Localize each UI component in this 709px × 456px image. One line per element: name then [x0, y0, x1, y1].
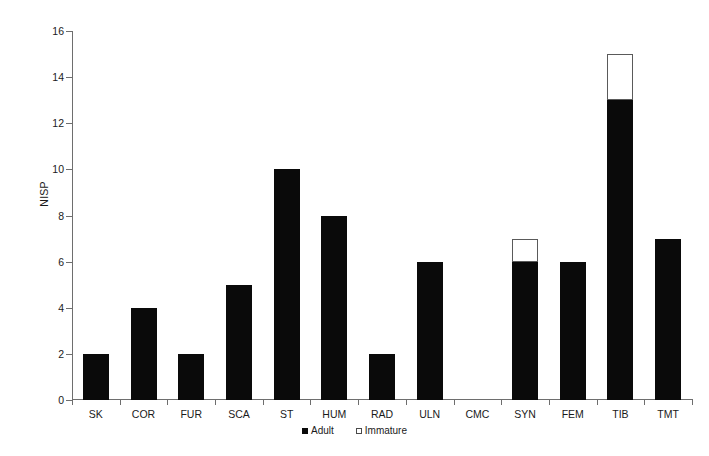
y-axis-tick-label: 8: [40, 211, 64, 221]
bar-group: [321, 216, 347, 401]
y-axis-tick-label: 6: [40, 257, 64, 267]
bar-segment-adult: [369, 354, 395, 400]
filled-square-icon: [302, 428, 308, 434]
legend-entry: Adult: [302, 425, 334, 436]
bar-group: [83, 354, 109, 400]
y-axis-tick-label: 16: [40, 26, 64, 36]
bar-group: [560, 262, 586, 400]
bar-group: [417, 262, 443, 400]
open-square-icon: [356, 428, 362, 434]
bar-segment-adult: [226, 285, 252, 400]
bar-group: [178, 354, 204, 400]
bar-chart: NISP 0246810121416 SKCORFURSCASTHUMRADUL…: [0, 0, 709, 456]
bar-segment-adult: [417, 262, 443, 400]
bar-group: [655, 239, 681, 400]
x-axis-tick: [72, 400, 73, 405]
bar-segment-adult: [607, 100, 633, 400]
y-axis-tick-label: 0: [40, 395, 64, 405]
y-axis-tick-label: 4: [40, 303, 64, 313]
x-axis-tick: [406, 400, 407, 405]
bar-segment-adult: [321, 216, 347, 401]
bar-segment-immature: [607, 54, 633, 100]
bar-segment-adult: [512, 262, 538, 400]
x-axis-tick: [692, 400, 693, 405]
x-axis-tick: [215, 400, 216, 405]
x-axis-tick: [167, 400, 168, 405]
bar-group: [512, 239, 538, 400]
bar-segment-adult: [131, 308, 157, 400]
x-axis-tick: [263, 400, 264, 405]
bar-group: [274, 169, 300, 400]
bar-group: [607, 54, 633, 400]
x-axis-tick: [501, 400, 502, 405]
x-axis-tick: [454, 400, 455, 405]
y-axis-tick-label: 12: [40, 118, 64, 128]
bar-segment-adult: [274, 169, 300, 400]
x-axis-tick-label: TMT: [638, 408, 698, 420]
bar-segment-immature: [512, 239, 538, 262]
legend-entry: Immature: [356, 425, 407, 436]
y-axis-tick-label: 14: [40, 72, 64, 82]
bar-group: [131, 308, 157, 400]
bar-group: [226, 285, 252, 400]
x-axis-tick: [644, 400, 645, 405]
legend-label: Immature: [365, 425, 407, 436]
legend-label: Adult: [311, 425, 334, 436]
chart-legend: AdultImmature: [0, 425, 709, 436]
bar-segment-adult: [178, 354, 204, 400]
bar-segment-adult: [560, 262, 586, 400]
bar-segment-adult: [655, 239, 681, 400]
bar-group: [369, 354, 395, 400]
y-axis-tick-label: 10: [40, 164, 64, 174]
x-axis-tick: [597, 400, 598, 405]
x-axis-tick: [310, 400, 311, 405]
plot-area: [72, 31, 692, 400]
x-axis-tick: [120, 400, 121, 405]
x-axis-tick: [549, 400, 550, 405]
bar-segment-adult: [83, 354, 109, 400]
x-axis-tick: [358, 400, 359, 405]
y-axis-tick-label: 2: [40, 349, 64, 359]
